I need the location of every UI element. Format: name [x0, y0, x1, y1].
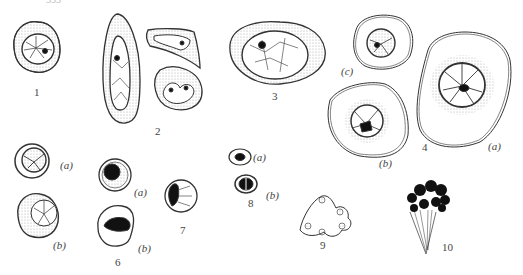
panel-2-label: 2: [155, 126, 161, 137]
panel-6a-label: (a): [134, 187, 147, 198]
panel-10-label: 10: [442, 242, 453, 253]
panel-1-label: 1: [34, 87, 40, 98]
panel-7-label: 7: [180, 225, 186, 236]
panel-8b-label: (b): [266, 190, 279, 201]
panel-4b-cell: [328, 83, 408, 158]
panel-5b-label: (b): [53, 240, 66, 251]
panel-8a-cell: [229, 149, 251, 165]
panel-4b-label: (b): [379, 158, 392, 169]
panel-8-label: 8: [248, 198, 254, 209]
panel-7-cell: [165, 180, 197, 212]
panel-4a-cell: [417, 32, 511, 147]
panel-5a-label: (a): [60, 160, 73, 171]
panel-5a-cell: [15, 144, 49, 178]
panel-4-label: 4: [422, 142, 428, 153]
panel-2-cells: [103, 14, 202, 123]
panel-1-cell: [14, 22, 60, 73]
panel-3-cell: [230, 22, 325, 85]
panel-6a-cell: [99, 159, 131, 191]
panel-8a-label: (a): [253, 152, 266, 163]
cell-illustrations: [0, 0, 523, 275]
panel-3-label: 3: [272, 91, 278, 102]
panel-4a-label: (a): [488, 141, 501, 152]
panel-4c-cell: [354, 15, 413, 69]
panel-6b-label: (b): [138, 243, 151, 254]
panel-9-cell: [300, 196, 351, 237]
panel-8b-cell: [235, 175, 257, 193]
panel-9-label: 9: [320, 240, 326, 251]
panel-6b-cell: [98, 206, 134, 246]
panel-5b-cell: [18, 194, 59, 238]
panel-4c-label: (c): [341, 66, 353, 77]
panel-6-label: 6: [115, 257, 121, 268]
